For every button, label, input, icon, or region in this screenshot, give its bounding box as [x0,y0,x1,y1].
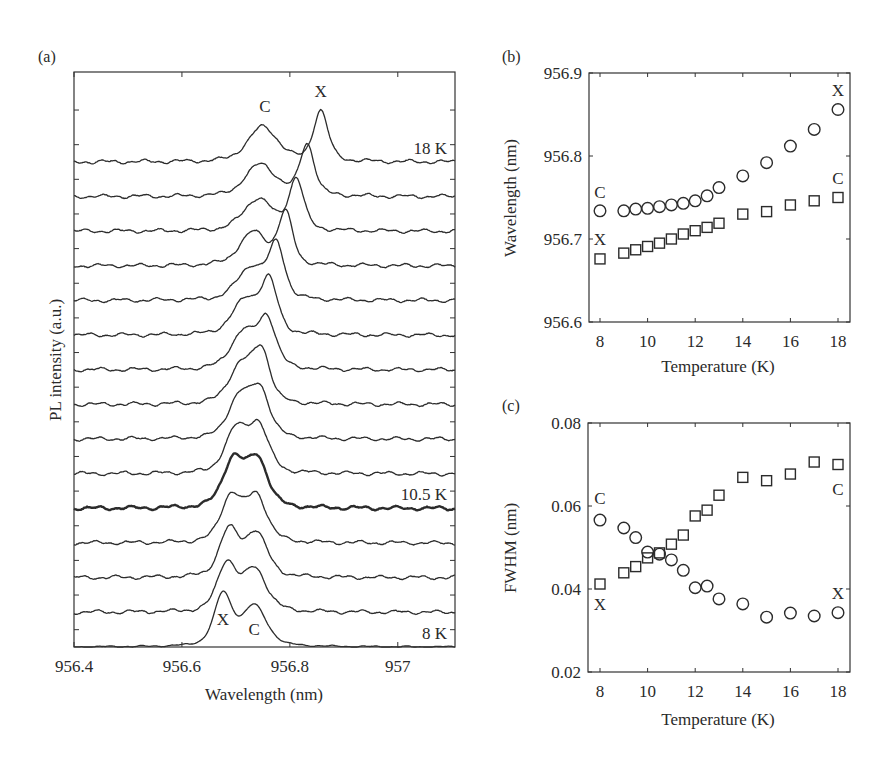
panel-c-fwhm-vs-temp: (c) 810121416180.020.040.060.08 CXCX Tem… [501,397,850,729]
circle-marker [713,593,725,605]
circle-marker [630,203,642,215]
circle-marker [642,202,654,214]
x-tick-label: 956.4 [55,657,94,676]
circle-marker [713,182,725,194]
pl-trace-12k [74,345,455,407]
y-axis-label-a: PL intensity (a.u.) [46,299,65,421]
y-tick-label: 0.04 [551,580,581,599]
circle-marker [618,522,630,534]
square-marker [690,226,700,236]
y-tick-label: 0.02 [551,663,581,682]
square-marker [833,460,843,470]
peak-label-x: X [314,82,326,101]
square-marker [809,457,819,467]
annotations-b: CXXC [594,81,844,249]
x-tick-label: 12 [687,332,704,351]
series-label-c: C [594,489,605,508]
series-label-x: X [594,230,606,249]
circle-marker [678,565,690,577]
square-marker [643,241,653,251]
circle-marker [761,157,773,169]
circle-marker [808,610,820,622]
axes-b: 81012141618956.6956.7956.8956.9 [544,64,850,351]
pl-traces [74,110,455,648]
x-tick-label: 10 [639,332,656,351]
circle-marker [785,140,797,152]
circle-marker [642,546,654,558]
temperature-label: 10.5 K [401,485,448,504]
square-marker [666,539,676,549]
pl-trace-16k [74,177,455,233]
pl-trace-10_5k [74,453,455,510]
circle-marker [666,199,678,211]
markers-c [594,457,844,623]
x-tick-label: 14 [734,682,752,701]
series-label-c: C [832,480,843,499]
square-marker [690,511,700,521]
pl-trace-13k [74,274,455,338]
circle-marker [701,190,713,202]
y-tick-label: 0.08 [551,414,581,433]
square-marker [655,238,665,248]
x-tick-label: 16 [782,332,799,351]
square-marker [738,472,748,482]
square-marker [809,196,819,206]
pl-trace-14k [74,239,455,303]
series-label-x: X [832,584,844,603]
square-marker [762,207,772,217]
square-marker [785,200,795,210]
markers-b [594,104,844,264]
panel-label-a: (a) [38,48,56,66]
y-axis-label-c: FWHM (nm) [501,503,520,593]
square-marker [631,245,641,255]
figure: (a) 956.4956.6956.8957 18 K10.5 K8 KCXXC… [0,0,888,766]
square-marker [619,568,629,578]
square-marker [702,222,712,232]
plot-frame-c [588,423,850,672]
peak-label-c: C [259,97,270,116]
panel-b-wavelength-vs-temp: (b) 81012141618956.6956.7956.8956.9 CXXC… [501,48,850,376]
plot-frame-b [589,73,850,322]
circle-marker [618,205,630,217]
square-marker [833,193,843,203]
circle-marker [832,104,844,116]
axes-c: 810121416180.020.040.060.08 [551,414,850,701]
x-tick-label: 12 [687,682,704,701]
circle-marker [594,514,606,526]
y-axis-label-b: Wavelength (nm) [501,139,520,257]
square-marker [738,209,748,219]
x-tick-label: 956.8 [271,657,309,676]
x-axis-label-b: Temperature (K) [661,357,775,376]
series-label-c: C [832,169,843,188]
x-tick-label: 18 [830,682,847,701]
y-tick-label: 956.6 [544,313,582,332]
circle-marker [701,580,713,592]
y-tick-label: 956.8 [544,147,582,166]
x-tick-label: 8 [596,332,605,351]
circle-marker [737,170,749,182]
x-tick-label: 956.6 [163,657,201,676]
circle-marker [808,124,820,136]
square-marker [714,218,724,228]
pl-trace-8k [74,591,455,647]
square-marker [631,562,641,572]
series-label-x: X [832,81,844,100]
x-axis-label-c: Temperature (K) [661,710,775,729]
trace-annotations: 18 K10.5 K8 KCXXC [217,82,448,643]
circle-marker [761,611,773,623]
circle-marker [737,598,749,610]
circle-marker [654,201,666,213]
circle-marker [785,607,797,619]
peak-label-x: X [217,610,229,629]
x-axis-ticks-a: 956.4956.6956.8957 [55,72,455,676]
square-marker [595,579,605,589]
temperature-label: 18 K [413,139,447,158]
y-tick-label: 956.7 [544,230,583,249]
x-tick-label: 18 [830,332,847,351]
plot-frame-a [74,72,455,647]
x-axis-label-a: Wavelength (nm) [205,685,323,704]
circle-marker [689,582,701,594]
circle-marker [594,205,606,217]
square-marker [678,530,688,540]
square-marker [762,476,772,486]
